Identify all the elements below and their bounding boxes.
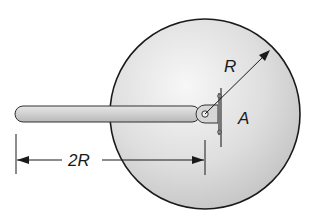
rod — [15, 106, 200, 122]
radius-label: R — [224, 57, 236, 76]
rod-length-label: 2R — [67, 151, 90, 170]
diagram-canvas: R A 2R — [0, 0, 315, 222]
pivot-hub — [196, 105, 218, 123]
pivot-label-a: A — [237, 109, 249, 128]
